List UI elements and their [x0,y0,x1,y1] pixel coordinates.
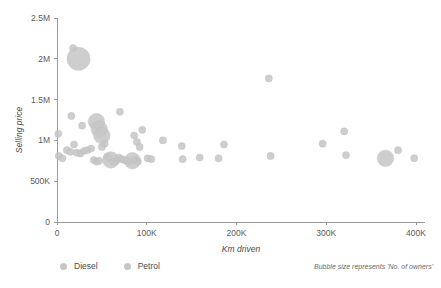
bubble-point[interactable] [70,141,77,148]
bubble-point[interactable] [159,137,166,144]
y-axis-title: Selling price [14,107,24,154]
bubble-point[interactable] [148,156,155,163]
bubble-point[interactable] [411,155,418,162]
bubble-point[interactable] [377,150,393,166]
legend-items: DieselPetrol [60,261,160,271]
bubble-point[interactable] [267,152,274,159]
bubble-point[interactable] [196,154,203,161]
bubble-point[interactable] [136,143,143,150]
bubble-point[interactable] [88,145,95,152]
x-tick-label: 100K [137,228,157,238]
x-tick-label: 200K [227,228,247,238]
x-tick-label: 0 [55,228,60,238]
bubble-point[interactable] [131,132,138,139]
legend-item-diesel[interactable]: Diesel [60,261,98,271]
bubble-size-note: Bubble size represents 'No. of owners' [314,263,433,270]
bubble-point[interactable] [59,155,66,162]
x-tick-label: 300K [316,228,336,238]
bubble-point[interactable] [215,155,222,162]
y-tick-label: 0 [45,217,50,227]
legend-item-petrol[interactable]: Petrol [124,261,160,271]
bubble-point[interactable] [79,122,86,129]
y-tick-label: 500K [30,176,50,186]
y-tick-label: 1.5M [31,95,50,105]
x-tick-label: 400K [406,228,426,238]
bubble-point[interactable] [341,128,348,135]
bubble-point[interactable] [96,157,103,164]
legend-label: Diesel [74,261,98,271]
bubble-point[interactable] [67,148,74,155]
y-axis: 0500K1M1.5M2M2.5M [30,13,57,227]
y-tick-label: 2M [38,54,50,64]
bubble-point[interactable] [265,75,272,82]
bubble-point[interactable] [134,158,141,165]
chart-legend: DieselPetrol Bubble size represents 'No.… [0,258,441,288]
bubble-point[interactable] [116,108,123,115]
bubble-point[interactable] [139,126,146,133]
bubble-point[interactable] [67,47,90,70]
y-tick-group: 0500K1M1.5M2M2.5M [30,13,57,227]
x-axis: 0100K200K300K400K [55,222,427,238]
bubble-point[interactable] [101,140,108,147]
bubble-point[interactable] [342,151,349,158]
bubble-point[interactable] [179,156,186,163]
y-tick-label: 1M [38,135,50,145]
bubble-series-group [55,45,418,169]
bubble-point[interactable] [178,143,185,150]
bubble-point[interactable] [394,147,401,154]
x-tick-group: 0100K200K300K400K [55,222,427,238]
x-axis-title: Km driven [222,244,261,254]
bubble-point[interactable] [220,141,227,148]
legend-dot-icon [60,263,67,270]
chart-canvas: 0500K1M1.5M2M2.5M 0100K200K300K400K Sell… [0,0,441,288]
legend-dot-icon [124,263,131,270]
legend-label: Petrol [138,261,160,271]
bubble-point[interactable] [68,112,75,119]
bubble-point[interactable] [319,140,326,147]
bubble-point[interactable] [55,130,62,137]
y-tick-label: 2.5M [31,13,50,23]
bubble-chart: 0500K1M1.5M2M2.5M 0100K200K300K400K Sell… [0,0,441,288]
